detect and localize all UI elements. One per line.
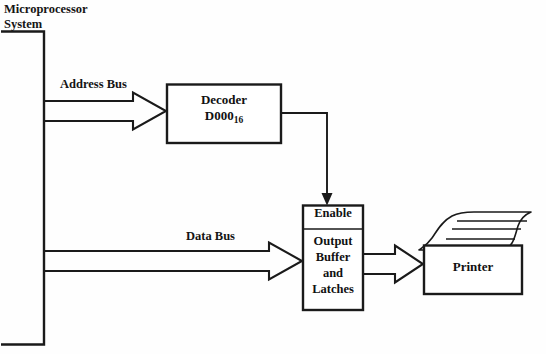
decoder-enable-line: [281, 113, 333, 206]
buffer-printer-arrow: [363, 246, 423, 283]
decoder-line1: Decoder: [201, 92, 247, 107]
microprocessor-system-label: MicroprocessorSystem: [4, 2, 88, 32]
output-buffer-label: OutputBufferandLatches: [303, 233, 363, 297]
buffer-line2: Buffer: [316, 250, 351, 264]
decoder-address-base: D000: [205, 108, 234, 123]
printer-label: Printer: [424, 259, 522, 275]
data-bus-arrow: [44, 243, 302, 280]
diagram-canvas: [0, 0, 546, 354]
decoder-label: DecoderD00016: [167, 92, 281, 124]
decoder-address-subscript: 16: [234, 115, 244, 125]
address-bus-label: Address Bus: [60, 78, 127, 92]
microprocessor-system-outline: [1, 32, 44, 345]
system-label-line1: Microprocessor: [4, 2, 88, 16]
enable-label: Enable: [303, 206, 363, 221]
buffer-line1: Output: [314, 234, 353, 248]
buffer-line3: and: [323, 266, 343, 280]
buffer-line4: Latches: [312, 282, 354, 296]
system-label-line2: System: [4, 17, 42, 31]
data-bus-label: Data Bus: [186, 230, 235, 244]
microprocessor-printer-diagram: MicroprocessorSystem Address Bus Data Bu…: [0, 0, 546, 354]
address-bus-arrow: [44, 93, 166, 130]
